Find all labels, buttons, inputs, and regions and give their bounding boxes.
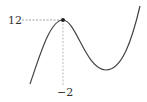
y-value-label: 12 bbox=[8, 14, 22, 27]
local-maximum-point bbox=[61, 18, 65, 22]
x-value-label: −2 bbox=[57, 86, 73, 99]
cubic-curve bbox=[30, 6, 140, 84]
function-graph: 12 −2 bbox=[0, 0, 147, 102]
